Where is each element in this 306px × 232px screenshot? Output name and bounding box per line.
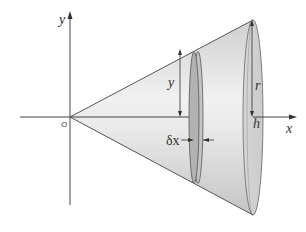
cone-radius-label: r xyxy=(255,78,261,93)
delta-x-label: δx xyxy=(166,133,180,148)
y-axis-label: y xyxy=(57,12,66,27)
disk-radius-arrow-up-icon xyxy=(178,49,182,55)
cone-diagram: y O y r h x δx xyxy=(0,0,306,232)
disk-radius-label: y xyxy=(166,75,175,90)
disk-front-face xyxy=(189,52,199,184)
cone-height-label: h xyxy=(253,116,260,131)
x-axis-label: x xyxy=(285,121,293,136)
y-axis-arrow-icon xyxy=(68,11,73,19)
origin-label: O xyxy=(61,120,67,129)
x-axis-arrow-icon xyxy=(289,115,297,120)
